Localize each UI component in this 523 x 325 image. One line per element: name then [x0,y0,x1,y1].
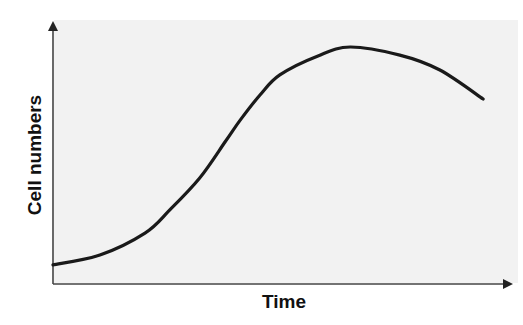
y-axis-label: Cell numbers [24,95,46,215]
x-axis-label: Time [262,291,306,313]
growth-curve-line [53,47,483,265]
chart-svg [0,0,523,325]
